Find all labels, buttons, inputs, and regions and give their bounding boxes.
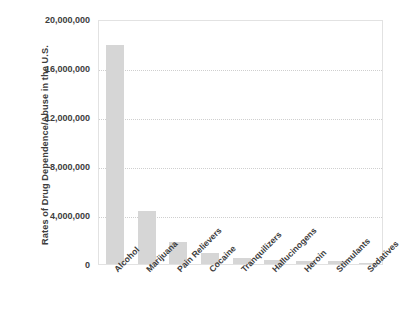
y-axis-tick-label: 20,000,000: [45, 15, 90, 25]
bar: [106, 45, 124, 264]
bar-chart: Rates of Drug Dependence/Abuse in the U.…: [0, 0, 403, 334]
y-axis-tick-labels: 04,000,0008,000,00012,000,00016,000,0002…: [0, 0, 94, 334]
x-axis-tick-labels: AlcoholMarijuanaPain RelieversCocaineTra…: [98, 265, 383, 334]
bars-group: [99, 21, 382, 264]
y-axis-tick-label: 0: [85, 260, 90, 270]
y-axis-tick-label: 8,000,000: [50, 162, 90, 172]
bar: [138, 211, 156, 264]
y-axis-tick-label: 12,000,000: [45, 113, 90, 123]
y-axis-tick-label: 4,000,000: [50, 211, 90, 221]
plot-area: [98, 20, 383, 265]
y-axis-tick-label: 16,000,000: [45, 64, 90, 74]
